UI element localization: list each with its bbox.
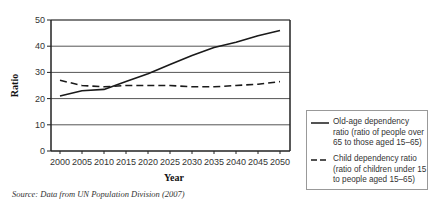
- x-tick-label: 2040: [226, 157, 246, 167]
- x-tick-label: 2010: [94, 157, 114, 167]
- y-axis-title: Ratio: [9, 74, 20, 97]
- x-tick-label: 2050: [270, 157, 290, 167]
- x-tick-label: 2005: [72, 157, 92, 167]
- x-tick-label: 2045: [248, 157, 268, 167]
- y-tick-label: 50: [35, 15, 45, 25]
- series-child-line: [60, 80, 280, 87]
- y-tick-label: 0: [40, 146, 45, 156]
- legend-label-old-age: Old-age dependency ratio (ratio of peopl…: [333, 117, 427, 149]
- x-tick-label: 2035: [204, 157, 224, 167]
- dashed-line-icon: [311, 156, 329, 164]
- legend-item-old-age: Old-age dependency ratio (ratio of peopl…: [311, 117, 427, 149]
- solid-line-icon: [311, 119, 329, 127]
- y-tick-label: 40: [35, 41, 45, 51]
- x-tick-label: 2020: [138, 157, 158, 167]
- legend-label-child: Child dependency ratio (ratio of childre…: [333, 154, 427, 186]
- y-tick-label: 10: [35, 120, 45, 130]
- x-axis-title: Year: [164, 172, 185, 183]
- y-tick-label: 30: [35, 67, 45, 77]
- legend-item-child: Child dependency ratio (ratio of childre…: [311, 154, 427, 186]
- x-tick-label: 2025: [160, 157, 180, 167]
- y-tick-label: 20: [35, 94, 45, 104]
- chart-legend: Old-age dependency ratio (ratio of peopl…: [306, 110, 428, 190]
- source-caption: Source: Data from UN Population Division…: [12, 189, 185, 199]
- x-tick-label: 2015: [116, 157, 136, 167]
- x-tick-label: 2030: [182, 157, 202, 167]
- x-tick-label: 2000: [50, 157, 70, 167]
